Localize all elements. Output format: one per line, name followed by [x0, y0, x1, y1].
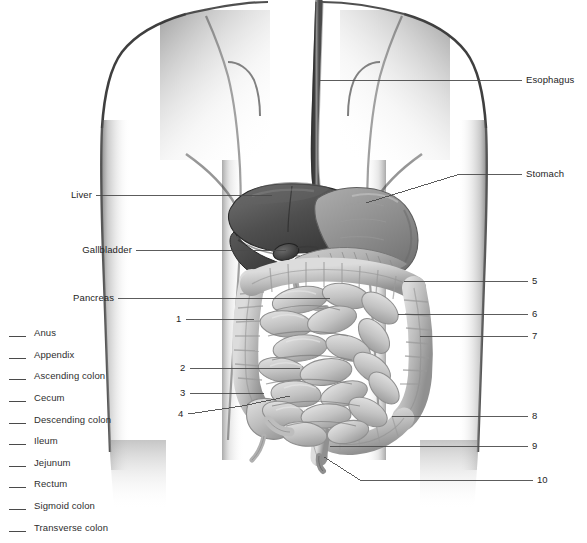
callout-number-9: 9	[532, 441, 537, 451]
callout-number-5: 5	[532, 276, 537, 286]
blank-line-icon[interactable]	[9, 487, 26, 488]
word-bank-item-rectum[interactable]: Rectum	[0, 473, 150, 495]
word-bank-label: Sigmoid colon	[34, 500, 95, 511]
callout-number-10: 10	[537, 475, 548, 485]
diagram-stage: Anus Appendix Ascending colon Cecum Desc…	[0, 0, 587, 543]
word-bank: Anus Appendix Ascending colon Cecum Desc…	[0, 322, 150, 538]
blank-line-icon[interactable]	[9, 531, 26, 532]
blank-line-icon[interactable]	[9, 358, 26, 359]
callout-liver: Liver	[16, 190, 92, 200]
word-bank-item-cecum[interactable]: Cecum	[0, 387, 150, 409]
callout-gallbladder: Gallbladder	[16, 245, 132, 255]
word-bank-item-ileum[interactable]: Ileum	[0, 430, 150, 452]
blank-line-icon[interactable]	[9, 444, 26, 445]
word-bank-item-appendix[interactable]: Appendix	[0, 344, 150, 366]
callout-number-4: 4	[178, 409, 183, 419]
callout-esophagus: Esophagus	[526, 75, 574, 85]
word-bank-item-jejunum[interactable]: Jejunum	[0, 452, 150, 474]
callout-stomach: Stomach	[526, 169, 564, 179]
callout-pancreas: Pancreas	[16, 293, 114, 303]
word-bank-item-anus[interactable]: Anus	[0, 322, 150, 344]
word-bank-label: Descending colon	[34, 414, 111, 425]
callout-number-7: 7	[532, 331, 537, 341]
word-bank-item-ascending-colon[interactable]: Ascending colon	[0, 365, 150, 387]
blank-line-icon[interactable]	[9, 379, 26, 380]
callout-number-2: 2	[180, 363, 185, 373]
word-bank-label: Anus	[34, 327, 56, 338]
blank-line-icon[interactable]	[9, 336, 26, 337]
word-bank-label: Rectum	[34, 478, 67, 489]
word-bank-label: Transverse colon	[34, 522, 108, 533]
word-bank-label: Appendix	[34, 349, 74, 360]
blank-line-icon[interactable]	[9, 466, 26, 467]
callout-number-1: 1	[176, 314, 181, 324]
blank-line-icon[interactable]	[9, 401, 26, 402]
word-bank-item-transverse-colon[interactable]: Transverse colon	[0, 516, 150, 538]
word-bank-label: Ascending colon	[34, 370, 105, 381]
callout-number-8: 8	[532, 411, 537, 421]
word-bank-label: Jejunum	[34, 457, 71, 468]
word-bank-item-sigmoid-colon[interactable]: Sigmoid colon	[0, 495, 150, 517]
callout-number-3: 3	[180, 388, 185, 398]
word-bank-item-descending-colon[interactable]: Descending colon	[0, 408, 150, 430]
word-bank-label: Cecum	[34, 392, 65, 403]
blank-line-icon[interactable]	[9, 509, 26, 510]
word-bank-label: Ileum	[34, 435, 58, 446]
callout-number-6: 6	[532, 309, 537, 319]
blank-line-icon[interactable]	[9, 423, 26, 424]
